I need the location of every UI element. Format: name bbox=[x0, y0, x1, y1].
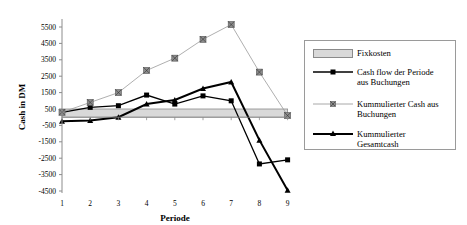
fixkosten-band bbox=[62, 109, 288, 117]
x-tick-label: 7 bbox=[229, 199, 233, 208]
legend-label: Cash flow der Periode bbox=[357, 67, 434, 77]
y-tick-label: -500 bbox=[42, 121, 56, 130]
y-tick-label: 3500 bbox=[41, 55, 56, 64]
x-tick-label: 2 bbox=[88, 199, 92, 208]
legend: Fixkosten Cash flow der Periodeaus Buchu… bbox=[304, 40, 456, 150]
series-cash-flow-der-periode-aus-buchungen bbox=[60, 93, 291, 167]
fixkosten-swatch-icon bbox=[313, 48, 353, 58]
x-tick-label: 6 bbox=[201, 199, 205, 208]
y-tick-label: -4500 bbox=[39, 187, 57, 196]
y-tick-label: -3500 bbox=[39, 170, 57, 179]
y-tick-label: -1500 bbox=[39, 137, 57, 146]
plot-area bbox=[59, 22, 291, 193]
x-square-marker-line-icon bbox=[313, 99, 353, 109]
y-tick-label: -2500 bbox=[39, 154, 57, 163]
legend-label: Kummulierter bbox=[357, 129, 406, 139]
square-marker-line-icon bbox=[313, 67, 353, 77]
legend-label: Buchungen bbox=[357, 109, 396, 119]
legend-label: Gesamtcash bbox=[357, 139, 399, 149]
x-tick-label: 8 bbox=[258, 199, 262, 208]
y-axis-title: Cash in DM bbox=[17, 83, 27, 130]
y-tick-label: 4500 bbox=[41, 39, 56, 48]
legend-label: aus Buchungen bbox=[357, 77, 410, 87]
x-tick-label: 9 bbox=[286, 199, 290, 208]
legend-label: Kummulierter Cash aus bbox=[357, 99, 439, 109]
y-tick-label: 1500 bbox=[41, 88, 56, 97]
x-tick-label: 5 bbox=[173, 199, 177, 208]
x-axis-title: Periode bbox=[160, 213, 190, 223]
x-tick-label: 1 bbox=[60, 199, 64, 208]
legend-label: Fixkosten bbox=[357, 48, 391, 58]
series-kummulierter-gesamtcash bbox=[59, 79, 291, 193]
y-axis: 55004500350025001500500-500-1500-2500-35… bbox=[39, 19, 63, 196]
triangle-marker-line-icon bbox=[313, 129, 353, 139]
x-tick-label: 3 bbox=[117, 199, 121, 208]
y-tick-label: 500 bbox=[45, 105, 57, 114]
y-tick-label: 5500 bbox=[41, 23, 56, 32]
y-tick-label: 2500 bbox=[41, 72, 56, 81]
x-tick-label: 4 bbox=[145, 199, 149, 208]
